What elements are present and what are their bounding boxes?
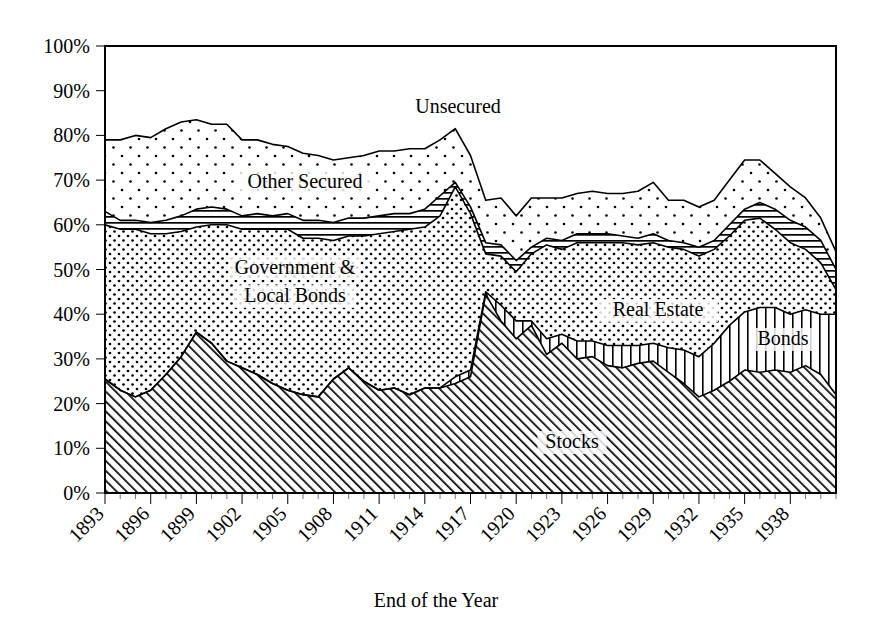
y-tick-label: 20% — [53, 393, 90, 415]
series-label-other-secured: Other Secured — [248, 170, 363, 192]
chart-canvas: 0%10%20%30%40%50%60%70%80%90%100% 189318… — [0, 0, 872, 637]
x-axis-title: End of the Year — [374, 589, 499, 611]
y-tick-label: 90% — [53, 80, 90, 102]
y-tick-label: 70% — [53, 169, 90, 191]
stacked-area-chart: 0%10%20%30%40%50%60%70%80%90%100% 189318… — [0, 0, 872, 637]
series-label-bonds: Bonds — [757, 327, 808, 349]
y-tick-label: 40% — [53, 303, 90, 325]
series-label-government: Government & — [235, 256, 356, 278]
series-label-unsecured: Unsecured — [415, 95, 501, 117]
y-tick-label: 60% — [53, 214, 90, 236]
y-tick-label: 10% — [53, 437, 90, 459]
y-tick-label: 80% — [53, 124, 90, 146]
y-tick-label: 30% — [53, 348, 90, 370]
y-tick-label: 50% — [53, 259, 90, 281]
series-label-stocks: Stocks — [545, 430, 599, 452]
series-label-local-bonds: Local Bonds — [244, 284, 346, 306]
series-label-real-estate: Real Estate — [613, 298, 704, 320]
y-tick-label: 100% — [43, 35, 90, 57]
y-tick-label: 0% — [63, 482, 90, 504]
